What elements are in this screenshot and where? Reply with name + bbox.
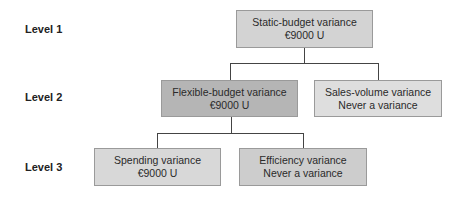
level-1-label: Level 1 [25,23,62,35]
connector-to-flexible [230,63,231,80]
node-title: Spending variance [114,154,201,167]
static-budget-variance-node: Static-budget variance €9000 U [236,10,373,48]
connector-static-down [304,48,305,64]
connector-to-efficiency [303,133,304,148]
level-2-label: Level 2 [25,91,62,103]
connector-flexible-down [231,117,232,134]
level-3-label: Level 3 [25,161,62,173]
node-value: €9000 U [138,167,178,180]
node-title: Sales-volume variance [325,86,431,99]
node-value: €9000 U [285,29,325,42]
connector-level2-horizontal [230,63,379,64]
node-title: Flexible-budget variance [172,86,286,99]
spending-variance-node: Spending variance €9000 U [94,148,221,186]
node-title: Static-budget variance [252,16,356,29]
efficiency-variance-node: Efficiency variance Never a variance [239,148,367,186]
node-value: Never a variance [338,99,417,112]
sales-volume-variance-node: Sales-volume variance Never a variance [314,80,442,117]
connector-to-spending [157,133,158,148]
flexible-budget-variance-node: Flexible-budget variance €9000 U [161,80,298,117]
node-value: Never a variance [263,167,342,180]
node-title: Efficiency variance [259,154,346,167]
connector-to-sales-volume [378,63,379,80]
node-value: €9000 U [210,99,250,112]
connector-level3-horizontal [157,133,304,134]
